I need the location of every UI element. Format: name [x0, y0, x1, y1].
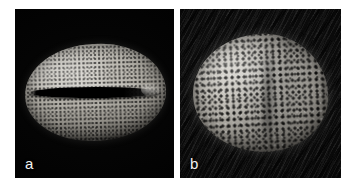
pollen-grain-a — [24, 42, 167, 143]
figure-plate: a b — [0, 0, 355, 186]
pollen-grain-b — [190, 31, 331, 156]
panel-label-b: b — [190, 156, 198, 171]
pollen-shading-b — [190, 31, 331, 156]
panel-a: a — [15, 9, 174, 178]
panel-b: b — [180, 9, 341, 178]
panel-label-a: a — [25, 156, 33, 171]
